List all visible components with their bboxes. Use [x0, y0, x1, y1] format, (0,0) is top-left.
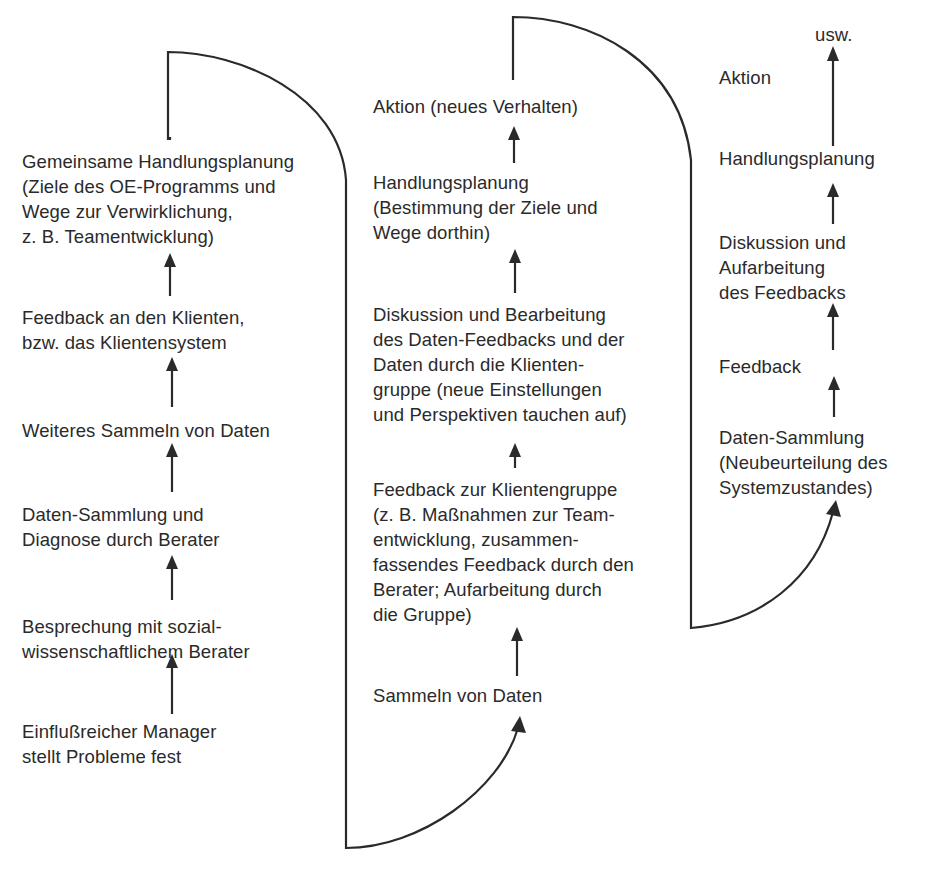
- arrowhead-icon: [827, 183, 839, 197]
- step-feedback: Feedback: [719, 354, 801, 379]
- arrowhead-icon: [828, 376, 840, 390]
- step-joint-action-planning: Gemeinsame Handlungsplanung (Ziele des O…: [22, 149, 294, 249]
- step-manager-identifies-problems: Einflußreicher Manager stellt Probleme f…: [22, 719, 216, 769]
- step-action: Aktion: [719, 65, 771, 90]
- step-etc: usw.: [815, 22, 852, 47]
- arrowhead-icon: [166, 555, 178, 569]
- arrowhead-icon: [508, 126, 520, 140]
- step-discussion-processing: Diskussion und Bearbeitung des Daten-Fee…: [373, 302, 627, 427]
- arrowhead-icon: [827, 303, 839, 317]
- arrowhead-icon: [827, 46, 839, 61]
- arrowhead-icon: [826, 500, 841, 517]
- step-action-planning-3: Handlungsplanung: [719, 146, 875, 171]
- step-feedback-to-client: Feedback an den Klienten, bzw. das Klien…: [22, 305, 245, 355]
- arrowhead-icon: [164, 253, 176, 267]
- step-collect-data: Sammeln von Daten: [373, 683, 542, 708]
- step-data-collection-diagnosis: Daten-Sammlung und Diagnose durch Berate…: [22, 502, 220, 552]
- step-action-new-behavior: Aktion (neues Verhalten): [373, 94, 578, 119]
- arrowhead-icon: [166, 443, 178, 457]
- diagram-canvas: Einflußreicher Manager stellt Probleme f…: [0, 0, 926, 869]
- step-feedback-to-client-group: Feedback zur Klientengruppe (z. B. Maßna…: [373, 477, 634, 627]
- arrowhead-icon: [511, 716, 526, 733]
- step-discussion-feedback: Diskussion und Aufarbeitung des Feedback…: [719, 230, 846, 305]
- step-data-collection-reassessment: Daten-Sammlung (Neubeurteilung des Syste…: [719, 425, 888, 500]
- step-further-data-collection: Weiteres Sammeln von Daten: [22, 418, 270, 443]
- step-action-planning: Handlungsplanung (Bestimmung der Ziele u…: [373, 170, 598, 245]
- arrowhead-icon: [511, 627, 523, 641]
- arrowhead-icon: [509, 249, 521, 263]
- step-meeting-with-consultant: Besprechung mit sozial- wissenschaftlich…: [22, 614, 250, 664]
- arrowhead-icon: [509, 443, 521, 457]
- arrowhead-icon: [166, 357, 178, 371]
